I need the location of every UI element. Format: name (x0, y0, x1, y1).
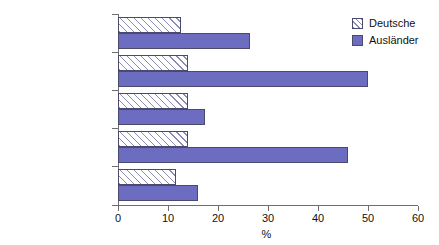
bar-auslaender-alle-gruppen (118, 33, 250, 49)
x-tick-label-40: 40 (298, 212, 338, 225)
x-tick-0 (118, 206, 119, 211)
x-tick-10 (168, 206, 169, 211)
x-tick-50 (368, 206, 369, 211)
legend: Deutsche Ausländer (352, 16, 419, 50)
x-tick-label-20: 20 (198, 212, 238, 225)
bar-deutsche-aerzte (118, 169, 176, 185)
y-tick-4 (112, 166, 118, 167)
bar-deutsche-kinderkrankenpflege (118, 55, 188, 71)
legend-item-auslaender: Ausländer (352, 33, 419, 47)
x-axis-title: % (0, 228, 439, 241)
bar-deutsche-krankenpflege (118, 93, 188, 109)
y-tick-0 (112, 14, 118, 15)
legend-label-deutsche: Deutsche (369, 17, 415, 29)
x-tick-20 (218, 206, 219, 211)
bar-auslaender-mtl (118, 147, 348, 163)
bar-auslaender-kinderkrankenpflege (118, 71, 368, 87)
y-tick-1 (112, 52, 118, 53)
legend-swatch-hatched-icon (352, 18, 363, 29)
x-tick-30 (268, 206, 269, 211)
bar-auslaender-krankenpflege (118, 109, 205, 125)
x-tick-label-10: 10 (148, 212, 188, 225)
bar-deutsche-alle-gruppen (118, 17, 181, 33)
x-tick-60 (418, 206, 419, 211)
bar-deutsche-mtl (118, 131, 188, 147)
legend-item-deutsche: Deutsche (352, 16, 419, 30)
bar-auslaender-aerzte (118, 185, 198, 201)
x-tick-40 (318, 206, 319, 211)
legend-label-auslaender: Ausländer (369, 34, 419, 46)
x-axis-title-text: % (262, 228, 272, 241)
y-tick-2 (112, 90, 118, 91)
x-tick-label-60: 60 (398, 212, 438, 225)
x-tick-label-30: 30 (248, 212, 288, 225)
legend-swatch-solid-icon (352, 35, 363, 46)
x-tick-label-0: 0 (98, 212, 138, 225)
bar-chart: Alle Gruppen Kinderkrankenpflege Kranken… (0, 0, 439, 245)
y-tick-3 (112, 128, 118, 129)
x-tick-label-50: 50 (348, 212, 388, 225)
